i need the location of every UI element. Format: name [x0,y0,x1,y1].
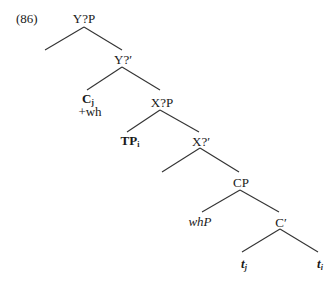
branch-cp-right [240,190,279,212]
node-xp: X?P [151,96,173,109]
branch-xbar-left [162,148,200,172]
node-cbar: C′ [275,216,287,229]
branch-ybar-left [87,67,122,90]
node-tp-index: i [137,140,139,149]
node-trace-j: tj [241,257,247,270]
node-ybar: Y?′ [114,53,132,66]
tree-branches [0,0,336,285]
branch-ybar-right [122,67,160,90]
branch-xbar-right [200,148,239,172]
node-tp-label: TP [121,133,138,148]
node-whp: whP [188,215,211,228]
node-c-feature: +wh [78,105,101,118]
branch-xp-left [127,110,160,132]
node-trace-i-index: i [321,263,323,272]
node-trace-i: ti [317,257,323,270]
node-trace-j-index: j [245,263,247,272]
branch-cp-left [202,190,240,212]
branch-root-right [84,27,122,50]
node-tp: TPi [121,134,140,147]
branch-root-left [45,27,84,50]
node-root-ycp: Y?P [73,12,95,25]
branch-cbar-right [280,229,318,252]
example-number: (86) [16,12,38,25]
node-xbar: X?′ [192,135,210,148]
branch-xp-right [160,110,199,132]
branch-cbar-left [242,229,280,252]
node-cp: CP [233,176,249,189]
